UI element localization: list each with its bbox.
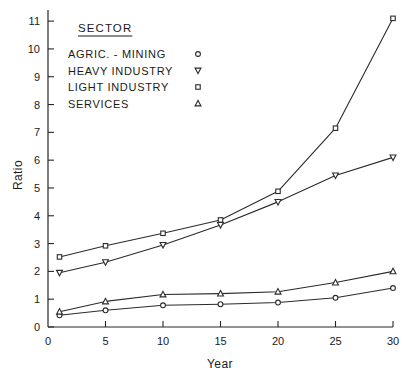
data-point-triangle-up bbox=[195, 100, 201, 106]
y-tick-label: 9 bbox=[34, 71, 40, 83]
y-tick-label: 10 bbox=[28, 43, 40, 55]
series-line bbox=[60, 271, 394, 311]
x-tick-label: 0 bbox=[45, 335, 51, 347]
data-point-circle bbox=[218, 302, 223, 307]
legend-entries: AGRIC. - MININGHEAVY INDUSTRYLIGHT INDUS… bbox=[68, 48, 201, 110]
data-point-circle bbox=[161, 303, 166, 308]
legend-title: SECTOR bbox=[78, 22, 132, 34]
data-point-square bbox=[196, 85, 200, 89]
data-point-square bbox=[391, 16, 395, 20]
data-point-square bbox=[218, 218, 222, 222]
y-axis-ticks bbox=[48, 21, 54, 327]
data-point-triangle-up bbox=[103, 298, 109, 304]
x-axis-title: Year bbox=[207, 357, 233, 371]
data-point-circle bbox=[276, 300, 281, 305]
line-chart: 01234567891011 051015202530 Ratio Year S… bbox=[0, 0, 403, 378]
data-point-triangle-up bbox=[275, 289, 281, 295]
data-point-square bbox=[103, 244, 107, 248]
data-point-square bbox=[161, 231, 165, 235]
y-tick-label: 1 bbox=[34, 293, 40, 305]
x-tick-label: 10 bbox=[157, 335, 169, 347]
legend-entry-label: LIGHT INDUSTRY bbox=[68, 81, 169, 93]
y-tick-label: 7 bbox=[34, 126, 40, 138]
data-point-triangle-up bbox=[218, 291, 224, 297]
legend-entry-label: AGRIC. - MINING bbox=[68, 48, 166, 60]
y-tick-label: 4 bbox=[34, 210, 40, 222]
x-tick-label: 30 bbox=[387, 335, 399, 347]
y-tick-label: 0 bbox=[34, 321, 40, 333]
data-point-triangle-up bbox=[160, 291, 166, 297]
y-tick-label: 6 bbox=[34, 154, 40, 166]
chart-canvas: 01234567891011 051015202530 Ratio Year S… bbox=[0, 0, 403, 378]
legend-entry-1: HEAVY INDUSTRY bbox=[68, 65, 201, 77]
data-series-layer bbox=[57, 16, 396, 318]
y-tick-label: 8 bbox=[34, 99, 40, 111]
data-point-circle bbox=[103, 308, 108, 313]
data-point-triangle-down bbox=[390, 155, 396, 161]
x-axis-tick-labels: 051015202530 bbox=[45, 335, 399, 347]
legend-entry-label: SERVICES bbox=[68, 98, 129, 110]
x-tick-label: 15 bbox=[214, 335, 226, 347]
series-line bbox=[60, 157, 394, 272]
y-axis-title: Ratio bbox=[11, 160, 25, 190]
series-1 bbox=[57, 155, 396, 276]
data-point-circle bbox=[391, 286, 396, 291]
series-line bbox=[60, 288, 394, 315]
data-point-square bbox=[57, 255, 61, 259]
y-tick-label: 2 bbox=[34, 265, 40, 277]
chart-legend: SECTOR AGRIC. - MININGHEAVY INDUSTRYLIGH… bbox=[68, 22, 201, 110]
data-point-circle bbox=[196, 52, 201, 57]
data-point-triangle-up bbox=[333, 279, 339, 285]
y-tick-label: 11 bbox=[29, 15, 40, 27]
legend-entry-3: SERVICES bbox=[68, 98, 201, 110]
x-tick-label: 20 bbox=[272, 335, 284, 347]
data-point-triangle-down bbox=[103, 260, 109, 266]
data-point-triangle-down bbox=[57, 270, 63, 276]
data-point-circle bbox=[333, 295, 338, 300]
y-tick-label: 5 bbox=[34, 182, 40, 194]
x-tick-label: 25 bbox=[329, 335, 341, 347]
legend-entry-2: LIGHT INDUSTRY bbox=[68, 81, 200, 93]
data-point-triangle-down bbox=[218, 223, 224, 229]
x-tick-label: 5 bbox=[102, 335, 108, 347]
data-point-triangle-down bbox=[160, 243, 166, 249]
legend-entry-0: AGRIC. - MINING bbox=[68, 48, 200, 60]
data-point-triangle-down bbox=[333, 173, 339, 179]
data-point-square bbox=[276, 189, 280, 193]
data-point-triangle-down bbox=[195, 68, 201, 74]
data-point-square bbox=[333, 126, 337, 130]
y-tick-label: 3 bbox=[34, 238, 40, 250]
data-point-triangle-up bbox=[390, 268, 396, 274]
data-point-triangle-up bbox=[57, 309, 63, 315]
x-axis-ticks bbox=[106, 321, 394, 327]
series-3 bbox=[57, 268, 396, 314]
data-point-triangle-down bbox=[275, 199, 281, 205]
legend-entry-label: HEAVY INDUSTRY bbox=[68, 65, 173, 77]
y-axis-tick-labels: 01234567891011 bbox=[28, 15, 40, 333]
